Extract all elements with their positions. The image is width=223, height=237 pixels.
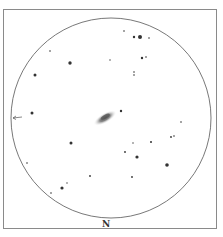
star (138, 35, 142, 39)
star (133, 36, 135, 38)
star (123, 30, 125, 32)
eyepiece-field (0, 0, 223, 237)
star (135, 155, 138, 158)
star (66, 182, 67, 183)
star (60, 186, 63, 189)
star (170, 136, 172, 138)
star (49, 50, 51, 52)
star (145, 56, 147, 58)
star (148, 37, 150, 39)
star (50, 192, 52, 194)
star (34, 74, 37, 77)
star (120, 110, 122, 112)
star (180, 121, 182, 123)
star (68, 61, 71, 64)
star (124, 151, 126, 153)
star (165, 163, 169, 167)
star (132, 142, 133, 143)
star (133, 71, 135, 73)
star (89, 175, 91, 177)
star (131, 176, 133, 178)
star (150, 141, 152, 143)
star (70, 142, 73, 145)
star (133, 74, 135, 76)
star (26, 162, 28, 164)
star (109, 59, 110, 60)
star (173, 135, 175, 137)
star (31, 112, 34, 115)
north-label: N (100, 219, 112, 229)
star (141, 57, 143, 59)
